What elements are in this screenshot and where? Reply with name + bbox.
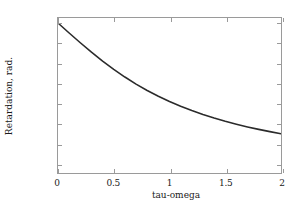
- y-axis-tick: [277, 23, 281, 24]
- y-axis-tick: [277, 43, 281, 44]
- x-axis-title: tau-omega: [0, 190, 295, 200]
- x-axis-tick: [58, 169, 59, 173]
- x-tick-label: 1: [167, 178, 173, 188]
- y-axis-tick: [58, 23, 62, 24]
- x-axis-tick: [283, 169, 284, 173]
- x-tick-label: 0: [54, 178, 60, 188]
- x-axis-tick: [171, 169, 172, 173]
- x-axis-tick: [227, 18, 228, 22]
- y-axis-tick: [277, 84, 281, 85]
- curve-polyline: [58, 23, 281, 134]
- y-axis-tick: [58, 165, 62, 166]
- y-axis-tick: [58, 64, 62, 65]
- y-axis-tick: [277, 124, 281, 125]
- x-tick-label: 2: [279, 178, 285, 188]
- plot-area: [57, 17, 282, 174]
- x-axis-tick: [114, 18, 115, 22]
- y-axis-tick: [277, 145, 281, 146]
- y-axis-tick: [277, 64, 281, 65]
- x-axis-tick: [171, 18, 172, 22]
- data-curve: [58, 18, 281, 173]
- y-axis-tick: [277, 104, 281, 105]
- x-axis-tick: [114, 169, 115, 173]
- y-axis-tick: [58, 124, 62, 125]
- y-axis-title: Retardation, rad.: [2, 17, 16, 174]
- x-tick-label: 0.5: [106, 178, 120, 188]
- y-axis-tick: [58, 104, 62, 105]
- x-axis-tick: [283, 18, 284, 22]
- y-axis-tick: [58, 43, 62, 44]
- x-axis-tick: [227, 169, 228, 173]
- y-axis-tick: [58, 145, 62, 146]
- y-axis-tick: [58, 84, 62, 85]
- y-axis-title-text: Retardation, rad.: [4, 56, 14, 134]
- x-axis-tick: [58, 18, 59, 22]
- chart-figure: Retardation, rad. 0−0.2−0.4−0.6−0.8−1−1.…: [0, 0, 295, 207]
- x-tick-label: 1.5: [219, 178, 233, 188]
- y-axis-tick: [277, 165, 281, 166]
